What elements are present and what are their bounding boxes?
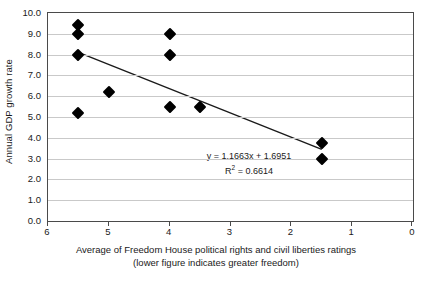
r-squared-value: = 0.6614 — [235, 166, 273, 176]
gridline — [48, 55, 413, 56]
y-axis-tick-label: 2.0 — [28, 173, 41, 184]
y-axis-tick-label: 3.0 — [28, 152, 41, 163]
y-axis-tick-label: 5.0 — [28, 111, 41, 122]
y-axis-tick-label: 6.0 — [28, 90, 41, 101]
plot-area: y = 1.1663x + 1.6951 R2 = 0.6614 — [47, 12, 414, 222]
x-axis-title-line2: (lower figure indicates greater freedom) — [0, 256, 432, 269]
x-axis-title-line1: Average of Freedom House political right… — [0, 243, 432, 256]
regression-annotation: y = 1.1663x + 1.6951 R2 = 0.6614 — [184, 150, 314, 177]
y-axis-tick-label: 0.0 — [28, 215, 41, 226]
gridline — [48, 34, 413, 35]
y-axis-tick-label: 4.0 — [28, 131, 41, 142]
x-axis-tick-label: 1 — [349, 226, 354, 237]
x-axis-tick-label: 3 — [227, 226, 232, 237]
gridline — [48, 117, 413, 118]
y-axis-tick-label: 7.0 — [28, 69, 41, 80]
y-axis-tick-label: 8.0 — [28, 48, 41, 59]
x-axis-tick-label: 6 — [44, 226, 49, 237]
x-axis-tick-label: 0 — [409, 226, 414, 237]
y-axis-tick-label: 10.0 — [23, 7, 42, 18]
gridline — [48, 138, 413, 139]
gridline — [48, 75, 413, 76]
r-squared-text: R2 = 0.6614 — [184, 162, 314, 177]
gridline — [48, 179, 413, 180]
x-axis-title: Average of Freedom House political right… — [0, 243, 432, 269]
gridline — [48, 200, 413, 201]
x-axis-tick-labels: 6543210 — [47, 222, 414, 238]
y-axis-tick-label: 1.0 — [28, 194, 41, 205]
y-axis-tick-labels: 0.01.02.03.04.05.06.07.08.09.010.0 — [16, 12, 44, 222]
x-axis-tick-label: 2 — [288, 226, 293, 237]
scatter-chart-figure: Annual GDP growth rate 0.01.02.03.04.05.… — [0, 0, 432, 281]
regression-equation-text: y = 1.1663x + 1.6951 — [184, 150, 314, 162]
y-axis-title-text: Annual GDP growth rate — [3, 59, 14, 164]
x-axis-tick-label: 4 — [166, 226, 171, 237]
x-axis-tick-label: 5 — [105, 226, 110, 237]
y-axis-tick-label: 9.0 — [28, 27, 41, 38]
gridline — [48, 96, 413, 97]
y-axis-title: Annual GDP growth rate — [0, 0, 16, 222]
gridline — [48, 159, 413, 160]
